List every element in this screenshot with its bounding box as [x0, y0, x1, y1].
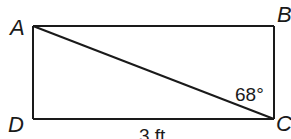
vertex-label-c: C [276, 111, 291, 136]
angle-label: 68° [235, 84, 264, 105]
vertex-label-d: D [8, 112, 24, 137]
vertex-label-a: A [8, 15, 25, 40]
diagonal-ac [33, 26, 274, 119]
vertex-label-b: B [277, 2, 291, 27]
side-length-label: 3 ft [139, 125, 166, 139]
rectangle-diagram: A B C D 68° 3 ft [0, 0, 291, 139]
rectangle-shape [33, 26, 274, 119]
